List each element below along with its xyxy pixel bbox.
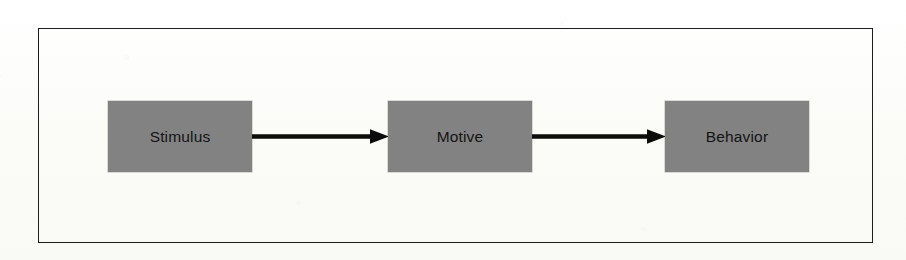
- node-behavior-label: Behavior: [706, 129, 768, 145]
- margin-cutoff-glyph: e: [0, 64, 5, 86]
- node-stimulus[interactable]: Stimulus: [108, 101, 252, 172]
- arrow-icon: [252, 128, 389, 145]
- node-stimulus-label: Stimulus: [150, 129, 211, 145]
- arrow-stimulus-to-motive[interactable]: [252, 128, 389, 145]
- node-motive[interactable]: Motive: [388, 101, 532, 172]
- diagram-page: e Stimulus Motive Behavior: [0, 0, 906, 260]
- node-motive-label: Motive: [437, 129, 484, 145]
- arrow-icon: [532, 128, 666, 145]
- node-behavior[interactable]: Behavior: [665, 101, 809, 172]
- arrow-motive-to-behavior[interactable]: [532, 128, 666, 145]
